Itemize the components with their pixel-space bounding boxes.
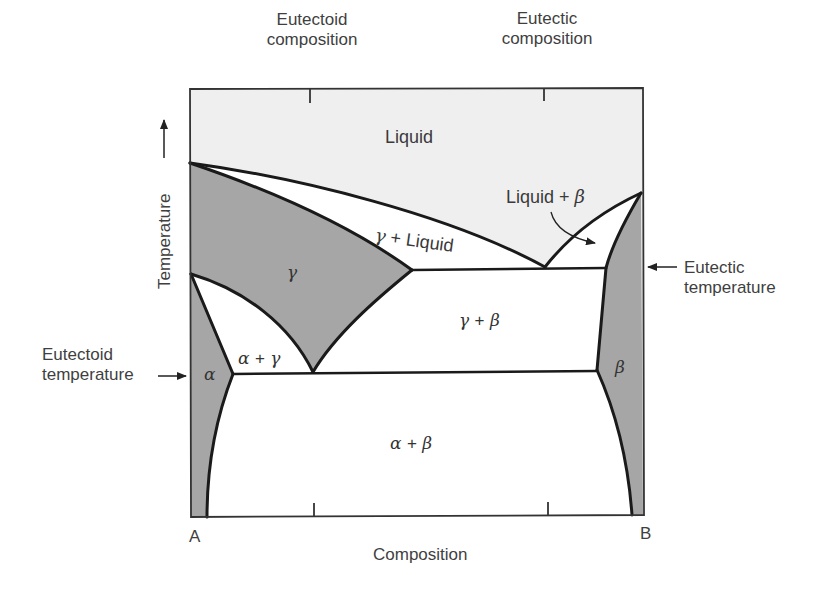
eutectoid-composition-line2: composition xyxy=(252,30,372,50)
alpha-region-label: α xyxy=(204,364,215,384)
alpha-plus-beta-right: β xyxy=(422,433,432,453)
phase-diagram xyxy=(0,0,833,597)
liquid-plus-beta-left: Liquid xyxy=(506,187,554,207)
temperature-axis-label: Temperature xyxy=(155,194,175,289)
liquid-region-label: Liquid xyxy=(385,127,433,148)
eutectic-composition-line1: Eutectic xyxy=(487,9,607,29)
gamma-plus-liquid-plus: + xyxy=(389,227,402,248)
alpha-plus-gamma-label: α + γ xyxy=(238,348,280,369)
gamma-plus-beta-right: β xyxy=(490,310,500,330)
eutectic-temperature-line2: temperature xyxy=(684,278,776,298)
eutectoid-temperature-line2: temperature xyxy=(42,365,134,385)
alpha-plus-beta-label: α + β xyxy=(390,433,432,454)
alpha-plus-gamma-plus: + xyxy=(255,349,265,368)
eutectoid-composition-label: Eutectoid composition xyxy=(252,10,372,50)
composition-axis-label: Composition xyxy=(373,545,468,565)
eutectic-composition-line2: composition xyxy=(487,29,607,49)
gamma-plus-beta-left: γ xyxy=(459,310,469,330)
eutectoid-temperature-line1: Eutectoid xyxy=(42,345,134,365)
alpha-plus-beta-left: α xyxy=(390,433,401,453)
beta-region-label: β xyxy=(615,357,625,377)
eutectic-temperature-label: Eutectic temperature xyxy=(684,258,776,298)
liquid-plus-beta-label: Liquid + β xyxy=(506,186,585,208)
gamma-plus-liquid-left: γ xyxy=(374,224,388,246)
eutectoid-temperature-label: Eutectoid temperature xyxy=(42,345,134,385)
gamma-region-label: γ xyxy=(287,262,297,282)
gamma-plus-beta-label: γ + β xyxy=(459,310,500,331)
alpha-plus-gamma-left: α xyxy=(238,348,249,368)
eutectic-temperature-line1: Eutectic xyxy=(684,258,776,278)
alpha-plus-beta-plus: + xyxy=(407,434,417,453)
liquid-plus-beta-right: β xyxy=(575,186,585,207)
eutectic-composition-label: Eutectic composition xyxy=(487,9,607,49)
gamma-plus-beta-plus: + xyxy=(475,311,485,330)
eutectoid-composition-line1: Eutectoid xyxy=(252,10,372,30)
end-label-a: A xyxy=(189,527,200,547)
alpha-plus-gamma-right: γ xyxy=(270,348,280,368)
liquid-plus-beta-plus: + xyxy=(559,187,570,207)
end-label-b: B xyxy=(640,524,651,544)
